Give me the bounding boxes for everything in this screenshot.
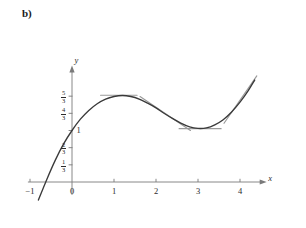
y-tick-label: 23 [58, 142, 69, 156]
y-tick-label: 1 [77, 125, 81, 135]
x-tick-label: 3 [188, 186, 208, 196]
x-tick-label: 2 [146, 186, 166, 196]
x-tick-label: 0 [62, 186, 82, 196]
x-tick-label: −1 [20, 186, 40, 196]
y-axis-name: y [75, 55, 79, 65]
y-tick-label: 43 [58, 107, 69, 121]
x-tick-label: 1 [104, 186, 124, 196]
y-tick-label: 53 [58, 90, 69, 104]
x-axis-name: x [268, 173, 272, 183]
y-tick-label: 13 [58, 159, 69, 173]
x-tick-label: 4 [230, 186, 250, 196]
panel-label: b) [22, 7, 32, 19]
